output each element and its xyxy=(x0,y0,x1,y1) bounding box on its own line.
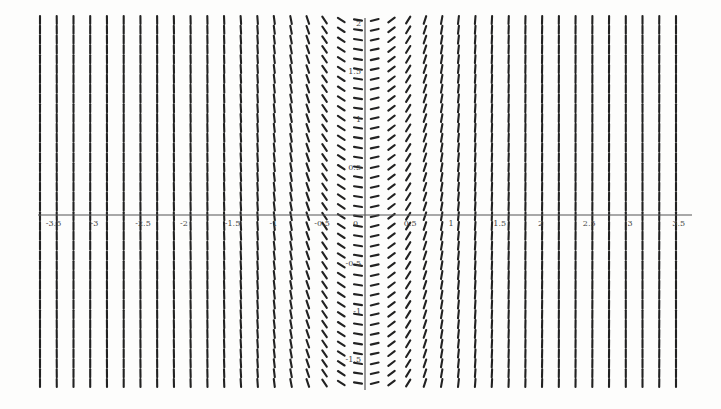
slope-segment xyxy=(257,65,258,73)
slope-segment xyxy=(458,232,459,240)
slope-segment xyxy=(458,340,459,348)
slope-segment xyxy=(307,242,310,250)
slope-segment xyxy=(458,183,459,191)
slope-segment xyxy=(338,28,345,32)
slope-segment xyxy=(307,46,310,54)
slope-segment xyxy=(371,382,379,384)
slope-segment xyxy=(338,293,345,297)
slope-segment xyxy=(458,330,459,338)
slope-segment xyxy=(441,222,442,230)
slope-segment xyxy=(406,242,410,249)
slope-segment xyxy=(257,163,258,171)
slope-segment xyxy=(241,65,242,73)
slope-segment xyxy=(290,193,292,201)
slope-segment xyxy=(458,124,459,132)
slope-segment xyxy=(290,203,292,211)
slope-segment xyxy=(322,174,327,181)
slope-segment xyxy=(257,301,258,309)
slope-segment xyxy=(257,330,258,338)
slope-segment xyxy=(388,371,394,376)
x-tick-label: 3 xyxy=(628,219,633,228)
slope-segment xyxy=(441,232,442,240)
y-tick-label: -1.5 xyxy=(346,355,361,364)
slope-segment xyxy=(424,242,427,250)
slope-segment xyxy=(406,154,410,161)
slope-segment xyxy=(406,350,410,357)
slope-segment xyxy=(406,183,410,190)
slope-segment xyxy=(424,203,427,211)
slope-segment xyxy=(388,194,394,199)
slope-segment xyxy=(274,183,275,191)
slope-segment xyxy=(290,242,292,250)
slope-segment xyxy=(257,379,258,387)
slope-segment xyxy=(274,320,275,328)
slope-segment xyxy=(424,301,427,309)
slope-segment xyxy=(388,175,394,180)
slope-segment xyxy=(458,281,459,289)
slope-segment xyxy=(257,252,258,260)
slope-segment xyxy=(441,95,442,103)
slope-segment xyxy=(475,271,476,279)
slope-segment xyxy=(458,173,459,181)
slope-segment xyxy=(338,312,345,316)
slope-segment xyxy=(241,193,242,201)
slope-segment xyxy=(388,18,394,23)
slope-segment xyxy=(241,55,242,63)
slope-segment xyxy=(307,262,310,270)
slope-segment xyxy=(406,66,410,73)
slope-segment xyxy=(406,46,410,53)
slope-segment xyxy=(257,16,258,24)
slope-segment xyxy=(338,371,345,375)
slope-segment xyxy=(354,275,362,276)
slope-segment xyxy=(322,17,327,24)
slope-segment xyxy=(441,242,442,250)
slope-segment xyxy=(338,194,345,198)
slope-segment xyxy=(338,106,345,110)
slope-segment xyxy=(274,46,275,54)
slope-segment xyxy=(388,67,394,72)
slope-segment xyxy=(338,204,345,208)
slope-segment xyxy=(371,127,379,129)
x-tick-label: 1.5 xyxy=(493,219,506,228)
slope-segment xyxy=(371,137,379,139)
slope-segment xyxy=(458,222,459,230)
slope-segment xyxy=(441,350,442,358)
slope-segment xyxy=(388,126,394,131)
slope-segment xyxy=(241,350,242,358)
slope-segment xyxy=(424,75,427,83)
slope-segment xyxy=(322,233,327,240)
slope-segment xyxy=(354,343,362,344)
slope-segment xyxy=(274,153,275,161)
slope-segment xyxy=(475,45,476,53)
slope-segment xyxy=(406,360,410,367)
slope-segment xyxy=(458,350,459,358)
slope-segment xyxy=(458,310,459,318)
slope-segment xyxy=(458,242,459,250)
slope-segment xyxy=(241,45,242,53)
slope-segment xyxy=(274,340,275,348)
slope-segment xyxy=(338,96,345,100)
y-tick-label: -1 xyxy=(353,307,361,316)
slope-segment xyxy=(290,291,292,299)
slope-segment xyxy=(475,183,476,191)
slope-segment xyxy=(388,341,394,346)
slope-segment xyxy=(475,291,476,299)
slope-segment xyxy=(354,353,362,354)
slope-segment xyxy=(290,163,292,171)
slope-segment xyxy=(475,163,476,171)
slope-segment xyxy=(388,37,394,42)
slope-segment xyxy=(475,153,476,161)
slope-segment xyxy=(290,320,292,328)
slope-segment xyxy=(441,271,442,279)
slope-segment xyxy=(322,144,327,151)
slope-segment xyxy=(458,301,459,309)
slope-segment xyxy=(307,114,310,122)
x-tick-label: 0 xyxy=(353,219,358,228)
slope-segment xyxy=(338,351,345,355)
slope-segment xyxy=(290,26,292,34)
slope-segment xyxy=(274,271,275,279)
slope-segment xyxy=(388,381,394,386)
slope-segment xyxy=(458,320,459,328)
slope-segment xyxy=(322,105,327,112)
slope-segment xyxy=(307,360,310,368)
